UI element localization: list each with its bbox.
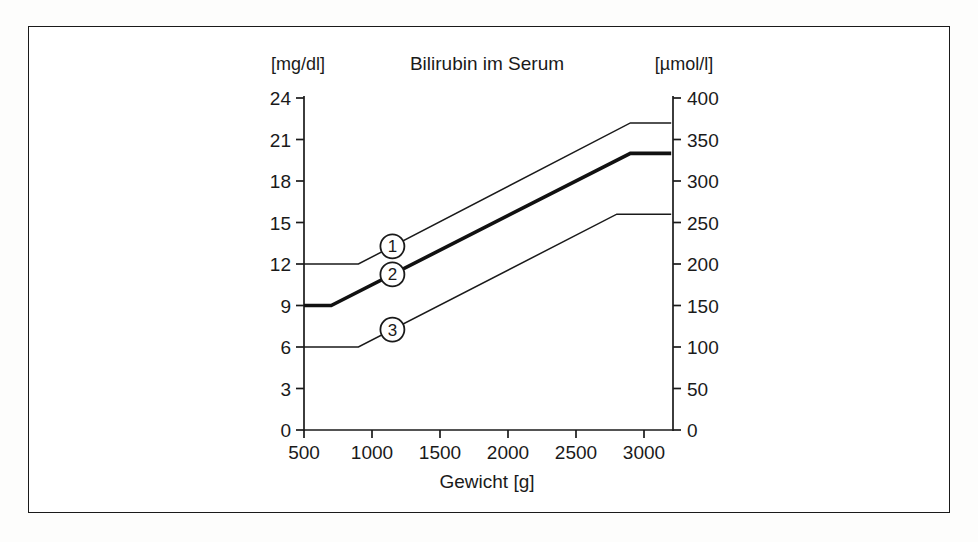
curve-series-3 (304, 214, 671, 347)
x-tick-label: 2000 (487, 442, 529, 463)
bilirubin-chart: [mg/dl] Bilirubin im Serum [µmol/l] 0 3 … (0, 0, 978, 542)
right-axis-ticks (673, 98, 681, 430)
marker-1: 1 (380, 234, 404, 258)
x-tick-label: 500 (288, 442, 320, 463)
chart-title: Bilirubin im Serum (410, 53, 564, 74)
right-tick-label: 350 (687, 130, 719, 151)
marker-2: 2 (380, 262, 404, 286)
x-tick-label: 1500 (419, 442, 461, 463)
right-tick-label: 0 (687, 420, 698, 441)
left-tick-label: 9 (280, 296, 291, 317)
left-tick-label: 6 (280, 337, 291, 358)
right-axis-unit-label: [µmol/l] (655, 54, 713, 74)
x-axis-ticks (304, 430, 644, 438)
marker-3: 3 (380, 318, 404, 342)
right-axis-tick-labels: 0 50 100 150 200 250 300 350 400 (687, 88, 719, 441)
right-tick-label: 250 (687, 213, 719, 234)
marker-1-label: 1 (388, 237, 397, 256)
left-tick-label: 12 (270, 254, 291, 275)
x-axis-title: Gewicht [g] (439, 471, 534, 492)
left-axis-ticks (296, 98, 304, 430)
curve-series-1 (304, 123, 671, 264)
marker-3-label: 3 (388, 321, 397, 340)
left-tick-label: 15 (270, 213, 291, 234)
page-root: [mg/dl] Bilirubin im Serum [µmol/l] 0 3 … (0, 0, 978, 542)
x-tick-label: 3000 (623, 442, 665, 463)
right-tick-label: 400 (687, 88, 719, 109)
curves-group (304, 123, 671, 347)
left-axis-unit-label: [mg/dl] (271, 54, 325, 74)
curve-series-2 (304, 153, 671, 305)
left-axis-tick-labels: 0 3 6 9 12 15 18 21 24 (270, 88, 292, 441)
right-tick-label: 300 (687, 171, 719, 192)
left-tick-label: 18 (270, 171, 291, 192)
x-axis-tick-labels: 500 1000 1500 2000 2500 3000 (288, 442, 665, 463)
left-tick-label: 3 (280, 379, 291, 400)
x-tick-label: 1000 (351, 442, 393, 463)
left-tick-label: 0 (280, 420, 291, 441)
left-tick-label: 21 (270, 130, 291, 151)
right-tick-label: 100 (687, 337, 719, 358)
right-tick-label: 200 (687, 254, 719, 275)
right-tick-label: 50 (687, 379, 708, 400)
right-tick-label: 150 (687, 296, 719, 317)
x-tick-label: 2500 (555, 442, 597, 463)
marker-2-label: 2 (388, 265, 397, 284)
left-tick-label: 24 (270, 88, 292, 109)
